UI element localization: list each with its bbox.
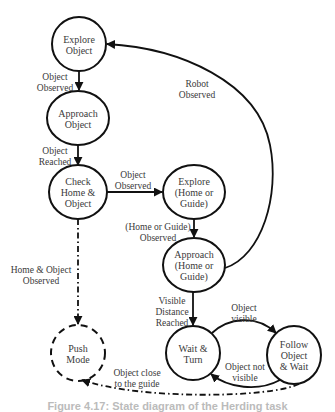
edge-label-object-close-guide: Object close to the guide: [113, 368, 160, 390]
edge-label-home-object-observed: Home & Object Observed: [11, 265, 72, 287]
node-label-wait-turn: Wait & Turn: [179, 343, 208, 365]
edge-label-object-observed-2: Object Observed: [115, 170, 151, 192]
node-label-approach-object: Approach Object: [58, 108, 97, 130]
edge-label-object-visible: Object visible: [231, 303, 256, 325]
node-label-approach-home-guide: Approach (Home or Guide): [174, 249, 213, 282]
node-label-explore-object: Explore Object: [63, 34, 95, 56]
edge-label-robot-observed: Robot Observed: [179, 79, 215, 101]
edge-label-home-guide-observed: (Home or Guide) Observed: [125, 222, 190, 244]
edge-label-object-observed-1: Object Observed: [37, 72, 73, 94]
edge-label-visible-distance-reached: Visible Distance Reached: [155, 296, 188, 329]
node-label-follow-object-wait: Follow Object & Wait: [280, 339, 309, 372]
edge-label-object-reached: Object Reached: [39, 146, 72, 168]
node-label-explore-home-guide: Explore (Home or Guide): [175, 176, 214, 209]
figure-caption: Figure 4.17: State diagram of the Herdin…: [0, 400, 335, 412]
node-label-push-mode: Push Mode: [66, 343, 89, 365]
edge-label-object-not-visible: Object not visible: [225, 362, 265, 384]
node-label-check-home-object: Check Home & Object: [61, 176, 96, 209]
